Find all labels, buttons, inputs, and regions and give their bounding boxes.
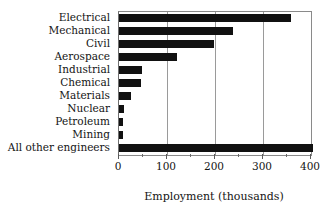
x-tick-major [166, 154, 167, 159]
x-tick-major [262, 154, 263, 159]
bar-row [119, 25, 311, 38]
x-tick-major [310, 154, 311, 159]
x-tick-major [214, 154, 215, 159]
x-tick-minor [190, 154, 191, 157]
x-tick-minor [142, 154, 143, 157]
category-label: Chemical [0, 76, 114, 89]
bar-row [119, 64, 311, 77]
bar [119, 79, 141, 87]
category-label: Nuclear [0, 102, 114, 115]
x-tick-label: 400 [300, 160, 320, 172]
x-tick-label: 300 [252, 160, 272, 172]
x-tick-label: 0 [115, 160, 122, 172]
x-tick-major [118, 154, 119, 159]
bar-row [119, 116, 311, 129]
bar-row [119, 103, 311, 116]
x-tick-label: 100 [156, 160, 176, 172]
bar [119, 144, 313, 152]
bar-row [119, 38, 311, 51]
category-label: Civil [0, 37, 114, 50]
category-label: All other engineers [0, 141, 114, 154]
x-axis-title: Employment (thousands) [118, 190, 310, 203]
bar [119, 92, 131, 100]
category-axis: Electrical Mechanical Civil Aerospace In… [0, 11, 114, 154]
bar [119, 53, 177, 61]
bar [119, 27, 233, 35]
category-label: Aerospace [0, 50, 114, 63]
x-tick-minor [238, 154, 239, 157]
bar [119, 131, 123, 139]
bar-row [119, 12, 311, 25]
category-label: Materials [0, 89, 114, 102]
bar-row [119, 129, 311, 142]
employment-bar-chart: Electrical Mechanical Civil Aerospace In… [0, 0, 333, 215]
x-axis: 0100200300400 [118, 154, 310, 184]
category-label: Industrial [0, 63, 114, 76]
category-label: Mining [0, 128, 114, 141]
bar-row [119, 51, 311, 64]
category-label: Electrical [0, 11, 114, 24]
bar-row [119, 77, 311, 90]
category-label: Mechanical [0, 24, 114, 37]
bar [119, 105, 124, 113]
x-tick-minor [286, 154, 287, 157]
bar-row [119, 90, 311, 103]
bars-layer [119, 12, 311, 155]
x-tick-label: 200 [204, 160, 224, 172]
bar [119, 66, 142, 74]
bar [119, 40, 214, 48]
plot-area [118, 11, 312, 156]
category-label: Petroleum [0, 115, 114, 128]
bar [119, 118, 123, 126]
bar [119, 14, 291, 22]
